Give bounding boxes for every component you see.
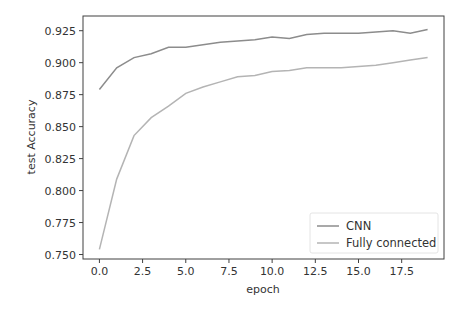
x-tick-label: 5.0: [177, 265, 195, 278]
y-tick-label: 0.850: [45, 121, 77, 134]
y-tick-label: 0.825: [45, 153, 77, 166]
y-tick-label: 0.750: [45, 249, 77, 262]
series-line-cnn: [99, 29, 427, 89]
x-tick-label: 2.5: [134, 265, 152, 278]
line-chart: 0.02.55.07.510.012.515.017.5 0.7500.7750…: [0, 0, 465, 309]
y-tick-label: 0.900: [45, 57, 77, 70]
y-axis-ticks: 0.7500.7750.8000.8250.8500.8750.9000.925: [45, 25, 84, 262]
x-tick-label: 0.0: [91, 265, 109, 278]
x-tick-label: 10.0: [260, 265, 285, 278]
legend-label: CNN: [346, 219, 371, 233]
x-tick-label: 15.0: [346, 265, 371, 278]
x-axis-ticks: 0.02.55.07.510.012.515.017.5: [91, 259, 414, 278]
y-tick-label: 0.800: [45, 185, 77, 198]
legend: CNNFully connected: [310, 213, 438, 253]
x-tick-label: 7.5: [220, 265, 238, 278]
legend-label: Fully connected: [346, 236, 436, 250]
x-tick-label: 12.5: [303, 265, 328, 278]
x-tick-label: 17.5: [389, 265, 414, 278]
y-tick-label: 0.875: [45, 89, 77, 102]
y-tick-label: 0.925: [45, 25, 77, 38]
y-axis-label: test Accuracy: [25, 99, 38, 174]
y-tick-label: 0.775: [45, 217, 77, 230]
x-axis-label: epoch: [246, 283, 280, 296]
